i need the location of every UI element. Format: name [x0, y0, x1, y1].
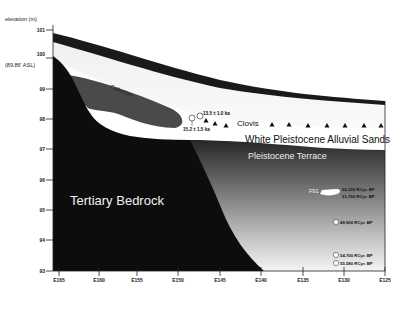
- y-tick-label: 93: [39, 268, 45, 274]
- x-tick-label: E140: [255, 277, 267, 283]
- x-tick-label: E150: [172, 277, 184, 283]
- terrace-label: Pleistocene Terrace: [248, 151, 327, 161]
- low-date-2: 55,580 RCyr. BP: [340, 261, 373, 266]
- y-tick-label: 96: [39, 177, 45, 183]
- y-tick-label: 97: [39, 146, 45, 152]
- radiocarbon-sample-low-2: [333, 260, 338, 265]
- y-tick-label: 100: [37, 51, 46, 57]
- mid-date: 49,900 RCyr. BP: [340, 220, 373, 225]
- x-tick-label: E145: [214, 277, 226, 283]
- cross-section-diagram: 10110099989796959493 E165E160E155E150E14…: [0, 0, 409, 311]
- x-tick-label: E165: [53, 277, 65, 283]
- x-tick-label: E130: [338, 277, 350, 283]
- low-date-1: 54,700 RCyr. BP: [340, 253, 373, 258]
- white-sands-label: White Pleistocene Alluvial Sands: [245, 134, 390, 145]
- osl-upper-date: 13.5 ± 1.0 ka: [203, 111, 230, 116]
- x-tick-label: E155: [131, 277, 143, 283]
- y-tick-label: 101: [37, 27, 46, 33]
- y-tick-label: 99: [39, 86, 45, 92]
- radiocarbon-sample-low-1: [333, 252, 338, 257]
- datum-note: (89.86' ASL): [5, 62, 35, 68]
- x-tick-label: E135: [297, 277, 309, 283]
- f91-label: F91: [309, 188, 318, 194]
- bedrock-label: Tertiary Bedrock: [70, 193, 164, 208]
- y-axis-title: elevation (m): [5, 16, 37, 22]
- x-tick-label: E160: [93, 277, 105, 283]
- osl-lower-date: 15.2 ± 1.5 ka: [183, 127, 210, 132]
- f91-date-1: 50,330 RCyr. BP: [342, 187, 375, 192]
- radiocarbon-sample-mid: [333, 219, 338, 224]
- y-tick-label: 98: [39, 116, 45, 122]
- y-tick-label: 95: [39, 207, 45, 213]
- osl-sample-lower: [189, 115, 195, 121]
- x-tick-label: E125: [379, 277, 391, 283]
- clovis-label: Clovis: [237, 119, 259, 128]
- y-tick-label: 94: [39, 237, 45, 243]
- f91-date-2: 51,700 RCyr. BP: [342, 194, 375, 199]
- y-axis-ticks: 10110099989796959493: [37, 27, 53, 274]
